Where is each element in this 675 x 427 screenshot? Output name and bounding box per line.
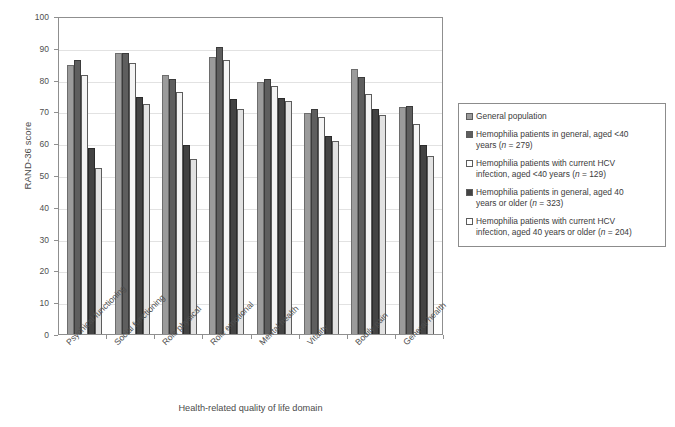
bar xyxy=(216,47,223,334)
bar xyxy=(406,106,413,334)
legend-label: Hemophilia patients in general, aged <40… xyxy=(476,129,659,151)
bar xyxy=(169,79,176,334)
legend-label: Hemophilia patients with current HCVinfe… xyxy=(476,216,659,238)
bar-group xyxy=(209,18,244,334)
bar xyxy=(365,94,372,334)
bar xyxy=(67,65,74,334)
bar xyxy=(176,92,183,334)
y-axis-tick-label: 10 xyxy=(40,298,49,308)
bar xyxy=(230,99,237,334)
y-axis-ticks: 0102030405060708090100 xyxy=(0,17,58,335)
bar xyxy=(351,69,358,334)
bar xyxy=(325,136,332,334)
legend-item: Hemophilia patients in general, aged 40y… xyxy=(466,187,659,209)
y-axis-tick-label: 100 xyxy=(35,12,49,22)
bar xyxy=(88,148,95,334)
bar xyxy=(358,77,365,334)
bar xyxy=(136,97,143,334)
bar-group xyxy=(257,18,292,334)
y-axis-tick-label: 40 xyxy=(40,203,49,213)
y-axis-tick-label: 50 xyxy=(40,171,49,181)
y-axis-tick-label: 80 xyxy=(40,76,49,86)
bar xyxy=(399,107,406,334)
bar-group xyxy=(67,18,102,334)
legend-swatch-icon xyxy=(466,189,473,196)
legend-label: General population xyxy=(476,111,659,122)
bar xyxy=(304,113,311,334)
bar xyxy=(332,141,339,334)
bar xyxy=(183,145,190,334)
legend-item: Hemophilia patients with current HCVinfe… xyxy=(466,158,659,180)
y-axis-tick-label: 60 xyxy=(40,139,49,149)
bar xyxy=(311,109,318,334)
y-axis-tick-label: 20 xyxy=(40,266,49,276)
bar xyxy=(271,86,278,334)
bar xyxy=(223,60,230,334)
bar xyxy=(74,60,81,334)
legend-label: Hemophilia patients in general, aged 40y… xyxy=(476,187,659,209)
legend-swatch-icon xyxy=(466,160,473,167)
legend-label: Hemophilia patients with current HCVinfe… xyxy=(476,158,659,180)
bar xyxy=(413,124,420,334)
bar-group xyxy=(351,18,386,334)
bar-group xyxy=(304,18,339,334)
x-axis-title: Health-related quality of life domain xyxy=(58,403,443,413)
legend-swatch-icon xyxy=(466,113,473,120)
y-axis-tick-label: 30 xyxy=(40,235,49,245)
legend-item: General population xyxy=(466,111,659,122)
bar xyxy=(129,63,136,334)
bar xyxy=(379,115,386,334)
chart-figure: RAND-36 score 0102030405060708090100 Psy… xyxy=(0,0,675,427)
bar xyxy=(81,75,88,334)
bar xyxy=(372,109,379,334)
legend-item: Hemophilia patients with current HCVinfe… xyxy=(466,216,659,238)
bar xyxy=(285,101,292,334)
bar xyxy=(257,82,264,334)
bar xyxy=(264,79,271,334)
bar-group xyxy=(399,18,434,334)
bar-group xyxy=(162,18,197,334)
bar xyxy=(237,109,244,334)
x-axis-category-labels: Psychical functioningSocial functioningR… xyxy=(0,338,470,398)
chart-legend: General populationHemophilia patients in… xyxy=(458,103,666,247)
bar xyxy=(420,145,427,334)
legend-item: Hemophilia patients in general, aged <40… xyxy=(466,129,659,151)
y-axis-tick-label: 70 xyxy=(40,107,49,117)
bar xyxy=(278,98,285,334)
bar xyxy=(318,117,325,334)
bar xyxy=(209,57,216,334)
y-axis-tick-label: 90 xyxy=(40,44,49,54)
legend-swatch-icon xyxy=(466,218,473,225)
legend-swatch-icon xyxy=(466,131,473,138)
bar xyxy=(143,104,150,334)
